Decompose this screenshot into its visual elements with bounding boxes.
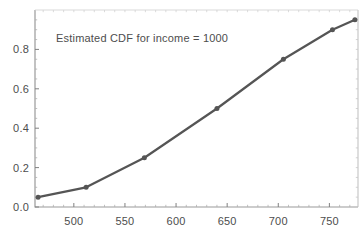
chart-title-annotation: Estimated CDF for income = 1000 bbox=[56, 32, 228, 44]
data-point-marker bbox=[352, 17, 357, 22]
x-tick-label: 750 bbox=[320, 215, 339, 227]
x-tick-label: 500 bbox=[64, 215, 83, 227]
x-tick-label: 650 bbox=[218, 215, 237, 227]
data-point-marker bbox=[36, 195, 41, 200]
data-point-marker bbox=[281, 57, 286, 62]
x-tick-label: 600 bbox=[167, 215, 186, 227]
axis-major-ticks bbox=[35, 49, 329, 207]
y-tick-label: 0.4 bbox=[0, 122, 29, 134]
y-tick-label: 0.6 bbox=[0, 83, 29, 95]
data-point-marker bbox=[84, 185, 89, 190]
data-point-marker bbox=[214, 106, 219, 111]
data-point-marker bbox=[330, 27, 335, 32]
x-tick-label: 550 bbox=[115, 215, 134, 227]
cdf-data-line bbox=[38, 20, 355, 197]
chart-figure: 0.00.20.40.60.8 500550600650700750 Estim… bbox=[0, 0, 364, 241]
y-tick-label: 0.0 bbox=[0, 201, 29, 213]
x-tick-label: 700 bbox=[269, 215, 288, 227]
y-tick-label: 0.8 bbox=[0, 43, 29, 55]
y-tick-label: 0.2 bbox=[0, 162, 29, 174]
data-point-marker bbox=[142, 155, 147, 160]
